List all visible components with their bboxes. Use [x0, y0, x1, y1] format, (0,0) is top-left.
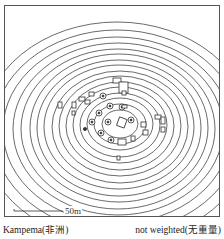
site-name-caption: Kampema(非洲)	[3, 224, 68, 236]
contour-map	[5, 6, 220, 217]
contour-rings	[5, 22, 220, 217]
dwelling-markers	[58, 78, 165, 160]
contour-map-frame	[4, 5, 220, 217]
weighting-caption: not weighted(无重量)	[135, 224, 221, 236]
scale-bar-label: 50m	[64, 206, 82, 216]
